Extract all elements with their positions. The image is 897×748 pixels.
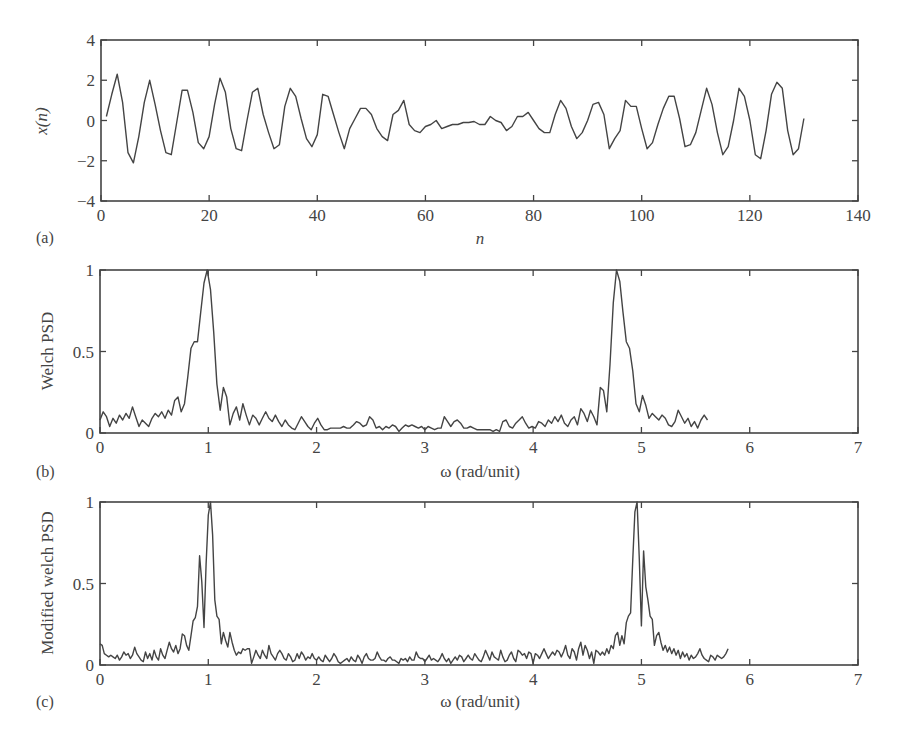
- panel-b-ylabel: Welch PSD: [38, 312, 57, 390]
- panel-c-psd-line: [100, 502, 728, 663]
- panel-b-xlabel: ω (rad/unit): [440, 462, 520, 481]
- x-tick-label: 3: [421, 670, 430, 689]
- x-tick-label: 60: [417, 206, 434, 225]
- x-tick-label: 5: [637, 438, 646, 457]
- x-tick-label: 5: [637, 670, 646, 689]
- x-tick-label: 20: [201, 206, 218, 225]
- figure: 020406080100120140−4−2024 x(n) n (a) 012…: [0, 0, 897, 748]
- x-tick-label: 6: [745, 670, 754, 689]
- panel-c-ticks: 0123456700.51: [73, 493, 863, 689]
- x-tick-label: 100: [629, 206, 655, 225]
- panel-b-welch-psd: 0123456700.51 Welch PSD ω (rad/unit) (b): [36, 261, 863, 481]
- y-tick-label: 0: [87, 112, 96, 131]
- panel-a-ylabel: x(n): [32, 107, 51, 136]
- x-tick-label: 0: [96, 438, 105, 457]
- y-tick-label: 0.5: [73, 575, 94, 594]
- x-tick-label: 80: [525, 206, 542, 225]
- panel-c-label: (c): [36, 693, 54, 711]
- y-tick-label: 0: [86, 656, 95, 675]
- x-tick-label: 1: [204, 670, 213, 689]
- x-tick-label: 1: [204, 438, 213, 457]
- x-tick-label: 4: [529, 670, 538, 689]
- y-tick-label: 0.5: [73, 343, 94, 362]
- panel-b-plot-area: [100, 270, 858, 433]
- x-tick-label: 0: [97, 206, 106, 225]
- panel-c-ylabel: Modified welch PSD: [38, 511, 57, 655]
- y-tick-label: 1: [86, 493, 95, 512]
- x-tick-label: 140: [845, 206, 871, 225]
- x-tick-label: 7: [854, 438, 863, 457]
- panel-a-signal-line: [106, 74, 804, 163]
- panel-a-time-series: 020406080100120140−4−2024 x(n) n (a): [32, 31, 871, 248]
- y-tick-label: 4: [87, 31, 96, 50]
- x-tick-label: 0: [96, 670, 105, 689]
- panel-c-modified-welch-psd: 0123456700.51 Modified welch PSD ω (rad/…: [36, 493, 863, 711]
- x-tick-label: 6: [745, 438, 754, 457]
- panel-a-plot-area: [101, 40, 858, 201]
- x-tick-label: 120: [737, 206, 763, 225]
- panel-a-xlabel: n: [476, 229, 485, 248]
- x-tick-label: 2: [312, 438, 321, 457]
- x-tick-label: 3: [421, 438, 430, 457]
- x-tick-label: 40: [309, 206, 326, 225]
- panel-c-xlabel: ω (rad/unit): [440, 692, 520, 711]
- x-tick-label: 7: [854, 670, 863, 689]
- y-tick-label: −2: [77, 152, 95, 171]
- y-tick-label: −4: [77, 192, 96, 211]
- panel-b-label: (b): [36, 463, 55, 481]
- panel-b-psd-line: [100, 270, 708, 431]
- y-tick-label: 0: [86, 424, 95, 443]
- y-tick-label: 2: [87, 71, 96, 90]
- x-tick-label: 4: [529, 438, 538, 457]
- y-tick-label: 1: [86, 261, 95, 280]
- panel-a-label: (a): [36, 229, 54, 247]
- x-tick-label: 2: [312, 670, 321, 689]
